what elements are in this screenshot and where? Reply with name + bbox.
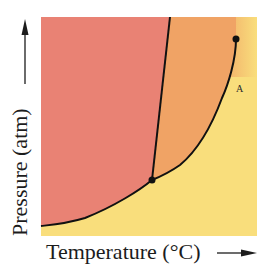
- critical-point: [233, 36, 240, 43]
- y-axis-arrow-icon: [22, 19, 29, 84]
- y-axis-label: Pressure (atm): [9, 108, 31, 236]
- triple-point: [149, 177, 156, 184]
- phase-diagram: [0, 0, 275, 279]
- region-label-a: A: [236, 84, 243, 94]
- x-axis-arrow-icon: [217, 250, 257, 257]
- x-axis-label: Temperature (°C): [46, 240, 200, 264]
